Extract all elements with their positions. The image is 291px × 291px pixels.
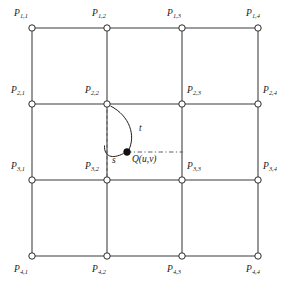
label-p-3-3: P3,3 bbox=[187, 162, 201, 172]
node-p-2-1 bbox=[29, 101, 35, 107]
label-p-3-3-sub: 3,3 bbox=[193, 165, 201, 172]
label-p-2-1-sub: 2,1 bbox=[17, 89, 25, 96]
node-p-4-4 bbox=[255, 253, 261, 259]
grid-vertical-lines bbox=[32, 28, 258, 256]
node-p-3-2 bbox=[104, 177, 110, 183]
node-p-3-4 bbox=[255, 177, 261, 183]
label-p-2-3: P2,3 bbox=[187, 86, 201, 96]
label-p-4-1: P4,1 bbox=[14, 265, 28, 275]
label-p-3-1-sub: 3,1 bbox=[17, 165, 25, 172]
label-p-4-1-sub: 4,1 bbox=[20, 268, 28, 275]
node-p-1-4 bbox=[255, 25, 261, 31]
label-p-1-4: P1,4 bbox=[246, 9, 260, 19]
label-p-3-2-sub: 3,2 bbox=[91, 165, 99, 172]
node-p-2-2 bbox=[104, 101, 110, 107]
control-point-nodes bbox=[29, 25, 261, 259]
node-p-4-1 bbox=[29, 253, 35, 259]
label-p-1-4-sub: 1,4 bbox=[252, 12, 260, 19]
t-curve-path bbox=[111, 106, 132, 151]
label-p-4-3: P4,3 bbox=[167, 265, 181, 275]
label-p-2-2-sub: 2,2 bbox=[91, 89, 99, 96]
label-p-1-3-sub: 1,3 bbox=[173, 12, 181, 19]
label-p-4-2-sub: 4,2 bbox=[98, 268, 106, 275]
label-p-2-4: P2,4 bbox=[263, 86, 277, 96]
label-t-parameter: t bbox=[139, 124, 142, 134]
node-p-1-1 bbox=[29, 25, 35, 31]
label-p-1-1-sub: 1,1 bbox=[20, 12, 28, 19]
label-p-4-4: P4,4 bbox=[246, 265, 260, 275]
grid-diagram-svg bbox=[0, 0, 291, 291]
grid-horizontal-lines bbox=[32, 28, 258, 256]
control-point-grid-figure: P1,1 P1,2 P1,3 P1,4 P2,1 P2,2 P2,3 P2,4 … bbox=[0, 0, 291, 291]
label-p-3-2: P3,2 bbox=[85, 162, 99, 172]
node-p-3-1 bbox=[29, 177, 35, 183]
node-p-2-4 bbox=[255, 101, 261, 107]
label-p-1-2: P1,2 bbox=[92, 9, 106, 19]
label-s-parameter: s bbox=[112, 156, 116, 166]
node-p-3-3 bbox=[179, 177, 185, 183]
node-p-1-3 bbox=[179, 25, 185, 31]
node-p-4-3 bbox=[179, 253, 185, 259]
node-p-2-3 bbox=[179, 101, 185, 107]
t-parameter-curve bbox=[111, 106, 132, 151]
label-q-point: Q(u,v) bbox=[132, 155, 157, 165]
label-p-1-3: P1,3 bbox=[167, 9, 181, 19]
q-point-marker bbox=[124, 149, 131, 156]
dashed-guides bbox=[107, 104, 183, 182]
label-p-1-1: P1,1 bbox=[14, 9, 28, 19]
node-p-4-2 bbox=[104, 253, 110, 259]
label-p-2-4-sub: 2,4 bbox=[269, 89, 277, 96]
label-p-3-1: P3,1 bbox=[11, 162, 25, 172]
label-p-2-1: P2,1 bbox=[11, 86, 25, 96]
label-p-4-2: P4,2 bbox=[92, 265, 106, 275]
label-p-2-2: P2,2 bbox=[85, 86, 99, 96]
node-p-1-2 bbox=[104, 25, 110, 31]
label-p-4-4-sub: 4,4 bbox=[252, 268, 260, 275]
label-p-1-2-sub: 1,2 bbox=[98, 12, 106, 19]
label-p-3-4-sub: 3,4 bbox=[269, 165, 277, 172]
label-p-3-4: P3,4 bbox=[263, 162, 277, 172]
label-p-4-3-sub: 4,3 bbox=[173, 268, 181, 275]
label-p-2-3-sub: 2,3 bbox=[193, 89, 201, 96]
